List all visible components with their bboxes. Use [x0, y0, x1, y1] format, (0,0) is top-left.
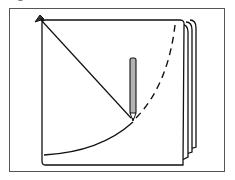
pin-icon — [35, 15, 44, 22]
front-page — [42, 20, 184, 165]
pencil-icon — [130, 58, 136, 121]
notebook-diagram — [0, 0, 235, 180]
